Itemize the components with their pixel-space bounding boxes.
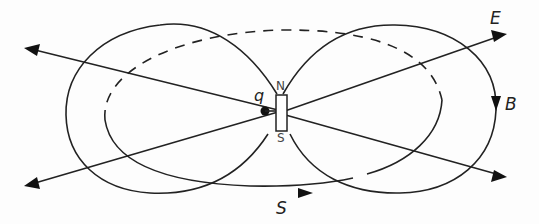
label-q: q xyxy=(254,86,264,105)
arrowhead-b xyxy=(491,96,501,111)
label-s-poynting: S xyxy=(276,198,287,218)
arrowhead-lower-right xyxy=(491,170,507,182)
label-north: N xyxy=(276,79,285,93)
arrowhead-upper-left xyxy=(24,44,40,56)
bar-magnet xyxy=(276,95,287,131)
e-line-lower-left xyxy=(35,112,278,183)
label-b: B xyxy=(505,94,517,114)
b-field-loop-right xyxy=(283,25,496,193)
b-field-loop-left xyxy=(66,24,277,193)
arrowhead-s xyxy=(298,188,313,198)
arrowhead-lower-left xyxy=(24,177,40,189)
s-loop-front-left xyxy=(105,120,353,186)
label-south: S xyxy=(277,131,285,145)
e-line-upper-left xyxy=(35,50,278,110)
diagram-canvas xyxy=(0,0,539,224)
s-loop-back xyxy=(105,30,442,120)
arrowhead-e xyxy=(491,30,507,42)
label-e: E xyxy=(490,8,501,28)
s-loop-front-right xyxy=(367,100,442,174)
e-line-upper-right xyxy=(282,36,500,112)
